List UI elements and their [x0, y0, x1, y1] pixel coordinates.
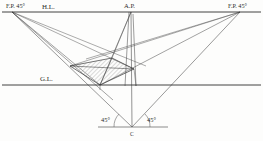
label-left-fp: F.P. 45° — [6, 2, 26, 9]
label-horizon-line: H.L. — [42, 3, 55, 11]
label-right-angle: 45° — [147, 116, 156, 123]
drawing-canvas: F.P. 45° H.L. A.P. F.P. 45° G.L. 45° 45°… — [0, 0, 263, 141]
perspective-drawing-figure: F.P. 45° H.L. A.P. F.P. 45° G.L. 45° 45°… — [0, 0, 263, 141]
label-axis-point: A.P. — [124, 2, 135, 9]
label-ground-line: G.L. — [40, 75, 53, 83]
label-left-angle: 45° — [101, 116, 110, 123]
label-station-point: C — [130, 131, 134, 137]
label-right-fp: F.P. 45° — [228, 2, 248, 9]
